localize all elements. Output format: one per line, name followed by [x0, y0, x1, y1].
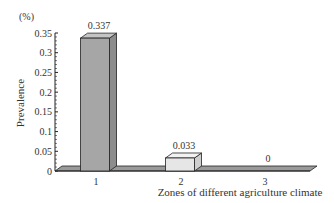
bar-value-label: 0.033	[173, 140, 196, 151]
y-tick-label: 0.05	[35, 146, 53, 157]
prevalence-bar-chart: 00.050.10.150.20.250.30.35 0.3370.0330 1…	[0, 0, 334, 203]
bar-front-face	[166, 158, 195, 171]
bars: 0.3370.0330	[81, 20, 271, 171]
bar-top-face	[166, 153, 202, 158]
y-unit-label: (%)	[19, 11, 34, 23]
bar-3: 0	[266, 153, 271, 164]
y-axis-title: Prevalence	[14, 79, 26, 127]
bar-side-face	[110, 33, 117, 171]
bar-front-face	[81, 38, 110, 171]
bar-1: 0.337	[81, 20, 117, 171]
bar-value-label: 0	[266, 153, 271, 164]
y-tick-label: 0.2	[40, 87, 53, 98]
y-tick-label: 0.1	[40, 126, 53, 137]
bar-2: 0.033	[166, 140, 202, 171]
y-tick-label: 0.3	[40, 47, 53, 58]
bar-top-face	[81, 33, 117, 38]
bar-value-label: 0.337	[88, 20, 111, 31]
y-tick-label: 0	[47, 166, 52, 177]
y-tick-label: 0.25	[35, 67, 53, 78]
x-tick-label: 1	[94, 176, 99, 187]
y-tick-label: 0.35	[35, 28, 53, 39]
y-tick-label: 0.15	[35, 106, 53, 117]
x-axis-title: Zones of different agriculture climate	[158, 186, 323, 198]
y-axis: 00.050.10.150.20.250.30.35	[35, 28, 59, 177]
